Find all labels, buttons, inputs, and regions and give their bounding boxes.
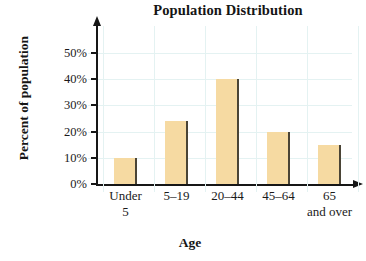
y-axis-tick-label: 20%: [64, 124, 87, 139]
y-axis-tick-label: 40%: [64, 72, 87, 87]
gridline-vertical: [307, 26, 308, 192]
chart-title: Population Distribution: [95, 2, 361, 19]
y-axis-tick: [91, 78, 98, 80]
y-axis-tick: [91, 157, 98, 159]
y-axis-tick-label: 50%: [64, 46, 87, 61]
x-axis-title: Age: [130, 235, 250, 251]
y-axis-tick: [91, 104, 98, 106]
gridline-vertical: [205, 26, 206, 192]
gridline-vertical: [103, 26, 104, 192]
y-axis-tick: [91, 52, 98, 54]
x-axis-line: [96, 184, 354, 186]
y-axis-tick: [91, 131, 98, 133]
bar: [216, 79, 239, 184]
bar: [114, 158, 137, 184]
bar: [267, 132, 290, 184]
population-distribution-chart: Population Distribution Percent of popul…: [0, 0, 366, 261]
gridline-horizontal: [88, 53, 352, 54]
y-axis-tick-label: 10%: [64, 150, 87, 165]
gridline-vertical: [154, 26, 155, 192]
gridline-vertical: [256, 26, 257, 192]
plot-area: 0%10%20%30%40%50% Under55–1920–4445–6465…: [96, 40, 352, 184]
y-axis-arrow-icon: [93, 16, 101, 26]
y-axis-tick-label: 0%: [70, 177, 87, 192]
y-axis-tick-label: 30%: [64, 98, 87, 113]
x-axis-category-label: 65and over: [300, 188, 360, 219]
bar: [318, 145, 341, 184]
bar: [165, 121, 188, 184]
gridline-vertical: [358, 26, 359, 192]
y-axis-title: Percent of population: [16, 8, 32, 188]
y-axis-tick: [91, 183, 98, 185]
